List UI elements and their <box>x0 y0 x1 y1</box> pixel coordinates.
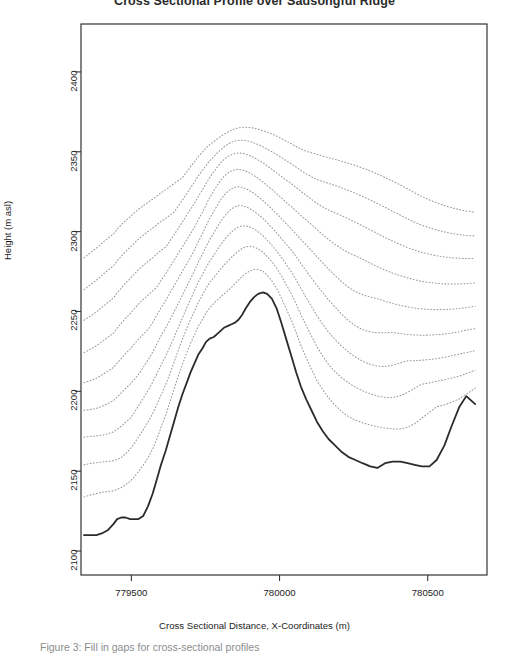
figure-caption: Figure 3: Fill in gaps for cross-section… <box>40 641 480 653</box>
x-axis-tick-label: 780000 <box>264 587 296 598</box>
interpolated-profile-line <box>84 226 475 437</box>
y-axis-tick-label: 2300 <box>68 230 79 262</box>
interpolated-profile-line <box>84 140 475 289</box>
y-axis-tick-label: 2250 <box>68 310 79 342</box>
interpolated-profile-line <box>84 169 475 352</box>
x-axis-label: Cross Sectional Distance, X-Coordinates … <box>0 620 509 631</box>
figure-container: Cross Sectional Profile over Sadsongful … <box>0 0 509 653</box>
chart-title: Cross Sectional Profile over Sadsongful … <box>0 0 509 8</box>
observed-profile-line <box>84 292 475 535</box>
interpolated-profile-line <box>84 187 475 383</box>
y-axis-label: Height (m asl) <box>2 100 13 260</box>
x-axis-tick-label: 779500 <box>115 587 147 598</box>
y-axis-tick-label: 2100 <box>68 550 79 582</box>
plot-frame <box>81 24 487 575</box>
y-axis-tick-label: 2350 <box>68 150 79 182</box>
interpolated-profile-line <box>84 127 475 258</box>
x-axis-tick-label: 780500 <box>412 587 444 598</box>
interpolated-profile-line <box>84 246 475 465</box>
y-axis-tick-label: 2200 <box>68 390 79 422</box>
y-axis-tick-label: 2150 <box>68 470 79 502</box>
interpolated-profile-line <box>84 206 475 411</box>
interpolated-profile-line <box>84 270 475 497</box>
y-axis-tick-label: 2400 <box>68 70 79 102</box>
